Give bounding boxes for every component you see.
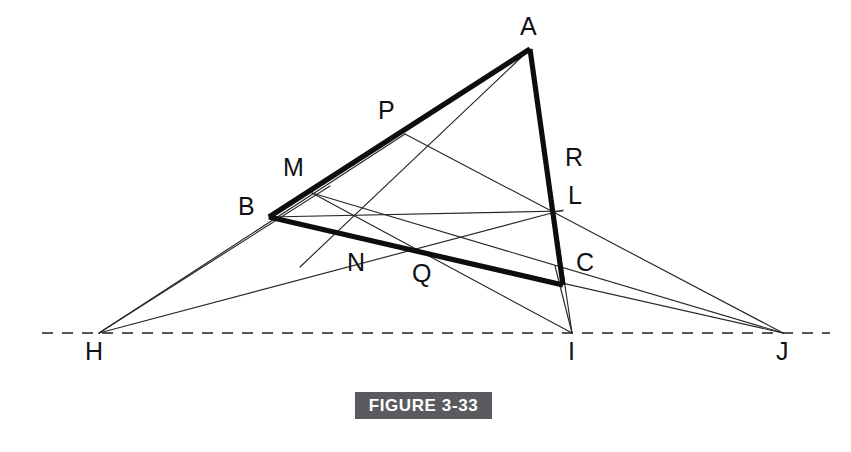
point-label-M: M [283,155,304,180]
point-label-P: P [378,98,395,123]
point-label-N: N [347,250,365,275]
point-label-L: L [568,183,582,208]
point-label-C: C [576,250,594,275]
side-CA [530,49,563,285]
side-AB [269,49,530,217]
triangle-abc [269,49,563,285]
point-label-I: I [568,339,575,364]
line-P-to-J [405,134,783,333]
point-label-Q: Q [412,261,431,286]
point-label-H: H [85,339,103,364]
figure-caption-text: FIGURE 3-33 [369,397,479,414]
point-label-B: B [238,194,255,219]
point-label-A: A [520,14,537,39]
line-B-to-L [269,211,563,217]
geometry-canvas [0,0,851,452]
point-label-J: J [776,339,789,364]
line-P-to-H [99,134,405,333]
figure-container: A P M B R L N Q C H I J FIGURE 3-33 [0,0,851,452]
point-label-R: R [565,145,583,170]
thin-line-group [99,49,783,333]
figure-caption-box: FIGURE 3-33 [355,392,492,419]
